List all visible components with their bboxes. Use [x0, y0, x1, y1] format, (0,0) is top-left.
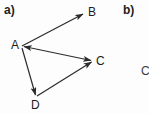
figure-canvas: a) b) A B C D C — [0, 0, 149, 114]
point-label-a: A — [11, 39, 19, 51]
point-label-b: B — [88, 6, 96, 18]
point-label-c: C — [96, 55, 105, 67]
point-label-d: D — [31, 99, 40, 111]
partial-point-label-c-right: C — [141, 65, 149, 77]
vector-diagram-svg — [0, 0, 149, 114]
vector-a-to-d — [22, 48, 36, 95]
vector-a-to-c — [24, 47, 91, 61]
vector-d-to-c — [37, 62, 92, 96]
vector-a-to-b — [22, 14, 83, 46]
